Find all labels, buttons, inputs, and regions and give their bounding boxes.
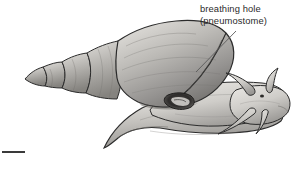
pneumostome-label-line-2: (pneumostome) xyxy=(200,15,298,27)
scale-bar xyxy=(2,151,25,153)
eye-spot xyxy=(260,95,264,98)
snail-anatomy-figure: breathing hole (pneumostome) ter xyxy=(0,0,298,169)
shell-spire xyxy=(25,41,122,99)
pneumostome-label-line-1: breathing hole xyxy=(200,3,261,14)
pneumostome-label: breathing hole (pneumostome) xyxy=(200,3,298,26)
scale-label: ter xyxy=(0,134,38,145)
